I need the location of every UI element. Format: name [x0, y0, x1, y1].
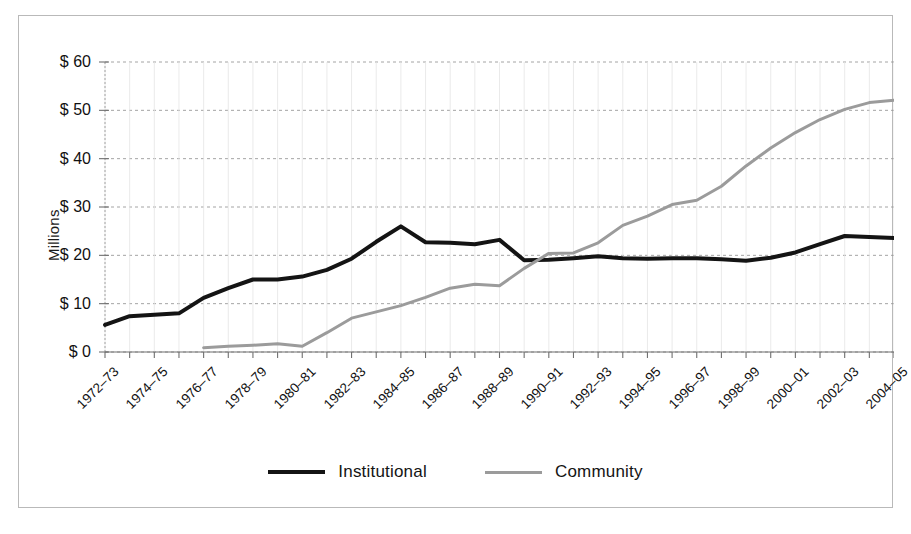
y-tick-label: $ 20: [19, 246, 91, 264]
chart-frame: Millions $ 0$ 10$ 20$ 30$ 40$ 50$ 60 197…: [18, 15, 893, 508]
y-tick-label: $ 60: [19, 53, 91, 71]
chart-plot-area: [19, 16, 894, 509]
figure: Millions $ 0$ 10$ 20$ 30$ 40$ 50$ 60 197…: [0, 0, 911, 534]
y-tick-label: $ 40: [19, 150, 91, 168]
y-tick-label: $ 50: [19, 101, 91, 119]
y-tick-label: $ 30: [19, 198, 91, 216]
y-tick-label: $ 0: [19, 343, 91, 361]
y-tick-label: $ 10: [19, 295, 91, 313]
